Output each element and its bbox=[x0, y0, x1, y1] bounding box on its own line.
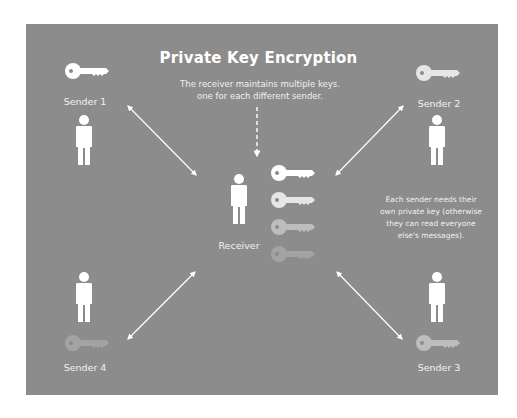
sender-3-person-icon bbox=[429, 272, 445, 322]
note-line-4: else's messages). bbox=[366, 230, 496, 242]
sender-2-key-icon bbox=[416, 65, 460, 81]
arrow-sender-1 bbox=[128, 106, 196, 175]
note-line-1: Each sender needs their bbox=[366, 194, 496, 206]
receiver-person-icon bbox=[231, 174, 247, 224]
sender-3-key-icon bbox=[416, 335, 460, 351]
sender-4-key-icon bbox=[65, 335, 109, 351]
receiver-label: Receiver bbox=[199, 240, 279, 251]
note-line-2: own private key (otherwise bbox=[366, 206, 496, 218]
receiver-key-3-icon bbox=[271, 219, 315, 235]
note-line-3: they can read everyone bbox=[366, 218, 496, 230]
arrow-sender-4 bbox=[128, 272, 195, 339]
receiver-key-1-icon bbox=[271, 165, 315, 181]
arrow-sender-3 bbox=[337, 272, 402, 339]
sender-note: Each sender needs their own private key … bbox=[366, 194, 496, 242]
sender-2-person-icon bbox=[429, 115, 445, 165]
sender-1-key-icon bbox=[65, 63, 109, 79]
sender-1-person-icon bbox=[76, 115, 92, 165]
sender-1-label: Sender 1 bbox=[45, 96, 125, 107]
receiver-key-2-icon bbox=[271, 192, 315, 208]
sender-4-person-icon bbox=[76, 272, 92, 322]
arrow-sender-2 bbox=[336, 106, 403, 175]
sender-2-label: Sender 2 bbox=[399, 98, 479, 109]
sender-3-label: Sender 3 bbox=[399, 362, 479, 373]
sender-4-label: Sender 4 bbox=[45, 362, 125, 373]
